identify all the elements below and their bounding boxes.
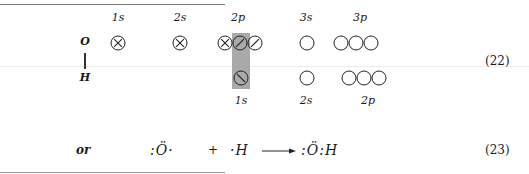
reactant-hydrogen: ·H: [230, 142, 249, 158]
label-1s-upper: 1s: [112, 11, 125, 24]
atom-oxygen: O: [80, 35, 90, 48]
orbital-single-icon: [233, 36, 248, 51]
orbital-single-icon: [248, 36, 263, 51]
product-hydroxyl: :Ö:H: [301, 142, 338, 158]
bottom-rule: [0, 172, 225, 173]
orbital-empty-icon: [300, 71, 315, 86]
faint-line: [0, 66, 529, 67]
orbital-empty-icon: [349, 36, 364, 51]
orbital-empty-icon: [334, 36, 349, 51]
orbital-paired-icon: [218, 36, 233, 51]
label-2s-upper: 2s: [174, 11, 187, 24]
orbital-empty-icon: [300, 36, 315, 51]
equation-number-22: (22): [485, 54, 510, 68]
top-rule: [0, 4, 225, 5]
label-1s-lower: 1s: [235, 94, 248, 107]
label-2p-upper: 2p: [231, 11, 245, 24]
orbital-empty-icon: [364, 36, 379, 51]
orbital-single-icon: [234, 71, 249, 86]
label-2s-lower: 2s: [300, 94, 313, 107]
orbital-empty-icon: [372, 71, 387, 86]
label-3p-upper: 3p: [353, 11, 367, 24]
atom-hydrogen: H: [80, 71, 90, 84]
equation-number-23: (23): [485, 143, 510, 157]
label-2p-lower: 2p: [361, 94, 375, 107]
orbital-paired-icon: [173, 36, 188, 51]
label-3s-upper: 3s: [300, 11, 313, 24]
reactant-oxygen: :Ö·: [150, 142, 174, 158]
orbital-empty-icon: [342, 71, 357, 86]
reaction-arrow-icon: [262, 148, 296, 154]
orbital-paired-icon: [111, 36, 126, 51]
bond-line: [84, 53, 86, 69]
orbital-empty-icon: [357, 71, 372, 86]
plus-sign: +: [208, 143, 218, 157]
equation-prefix: or: [76, 143, 90, 157]
